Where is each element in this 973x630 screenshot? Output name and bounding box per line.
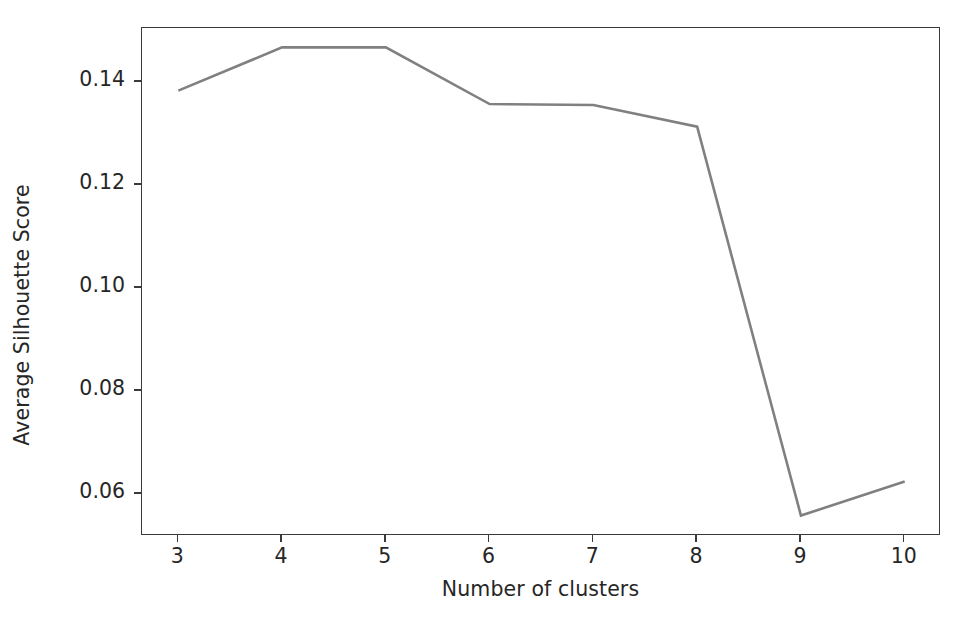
x-tick-mark <box>280 535 282 542</box>
x-tick-mark <box>384 535 386 542</box>
y-tick-label: 0.10 <box>0 273 125 297</box>
x-tick-label: 6 <box>459 544 519 568</box>
x-tick-mark <box>799 535 801 542</box>
x-axis-label: Number of clusters <box>141 577 940 601</box>
x-tick-label: 7 <box>562 544 622 568</box>
x-tick-label: 8 <box>666 544 726 568</box>
x-tick-label: 4 <box>251 544 311 568</box>
y-tick-mark <box>134 286 141 288</box>
x-tick-label: 10 <box>874 544 934 568</box>
x-tick-mark <box>177 535 179 542</box>
data-line-svg <box>142 28 941 536</box>
silhouette-score-line-chart: Average Silhouette Score 345678910 0.060… <box>0 0 973 630</box>
x-tick-mark <box>903 535 905 542</box>
y-tick-label: 0.14 <box>0 67 125 91</box>
x-tick-label: 9 <box>770 544 830 568</box>
y-axis-label: Average Silhouette Score <box>0 0 44 630</box>
y-tick-label: 0.06 <box>0 479 125 503</box>
x-tick-label: 3 <box>147 544 207 568</box>
x-tick-mark <box>695 535 697 542</box>
x-tick-mark <box>488 535 490 542</box>
y-tick-mark <box>134 80 141 82</box>
plot-area <box>141 27 940 535</box>
y-tick-label: 0.08 <box>0 376 125 400</box>
y-tick-mark <box>134 492 141 494</box>
y-tick-mark <box>134 389 141 391</box>
y-tick-mark <box>134 183 141 185</box>
data-series-line <box>178 47 904 515</box>
x-tick-mark <box>592 535 594 542</box>
x-tick-label: 5 <box>355 544 415 568</box>
y-tick-label: 0.12 <box>0 170 125 194</box>
